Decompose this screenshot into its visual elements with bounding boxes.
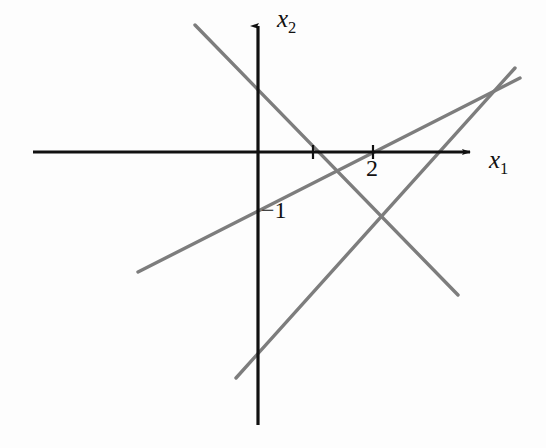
y-axis-label-subscript: 2 [288,18,296,37]
line-gentle-rising [138,78,520,272]
x-axis-label-subscript: 1 [500,159,508,178]
figure-canvas: x2 x1 2 −1 [0,0,546,448]
x-axis-label-base: x [489,146,500,173]
axes [33,26,470,425]
y-axis-label-base: x [277,5,288,32]
x-tick-label-2: 2 [366,155,378,182]
coordinate-plot [0,0,546,448]
y-axis-label: x2 [277,5,296,38]
x-axis-label: x1 [489,146,508,179]
line-descending [195,25,458,295]
y-intercept-label-minus-one: −1 [261,197,287,224]
plot-lines [138,25,520,378]
